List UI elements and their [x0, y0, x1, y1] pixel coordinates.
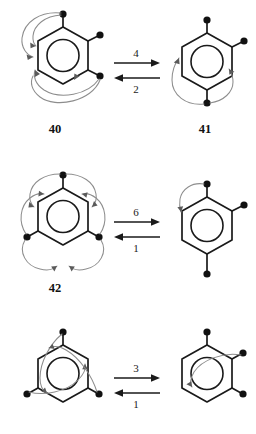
substituent-dot-c2-row-3-right — [239, 349, 246, 356]
permutation-arrow-row-2-right — [180, 184, 204, 212]
substituent-bond-c5-42 — [29, 231, 38, 236]
permutation-arrow-40-d — [31, 76, 100, 103]
substituent-bond-c2-row-2-right — [232, 206, 242, 211]
reverse-arrowhead-row-3 — [114, 389, 123, 396]
structure-label-40: 40 — [49, 122, 62, 136]
equilibrium-arrows-row-1: 4 2 — [114, 47, 160, 95]
structure-42 — [21, 171, 105, 271]
aromatic-circle-row-3-right — [191, 358, 223, 390]
permutation-arrowhead-row-3-right — [186, 381, 192, 387]
substituent-dot-c1-row-3-right — [203, 328, 210, 335]
reverse-arrowhead-row-1 — [114, 74, 123, 81]
reverse-arrow-label-row-2: 1 — [133, 242, 139, 254]
structure-row-3-right — [182, 328, 247, 402]
permutation-arrow-41-a — [172, 58, 204, 104]
substituent-dot-c5-42 — [23, 233, 30, 240]
substituent-dot-c3-row-3-right — [239, 390, 246, 397]
substituent-dot-c4-row-2-right — [203, 270, 210, 277]
structure-label-42: 42 — [49, 281, 62, 295]
permutation-arrowhead-42-e — [82, 192, 88, 198]
substituent-bond-c3-40 — [88, 70, 98, 75]
permutation-arrow-42-f — [69, 240, 104, 270]
aromatic-circle-42 — [47, 201, 79, 233]
structure-label-41: 41 — [199, 122, 212, 136]
substituent-bond-c2-41 — [232, 42, 242, 47]
substituent-bond-c3-42 — [88, 231, 97, 236]
substituent-dot-c1-40 — [59, 10, 66, 17]
substituent-bond-c2-40 — [88, 36, 98, 41]
aromatic-circle-40 — [47, 40, 79, 72]
structure-41 — [172, 16, 248, 106]
benzene-ring-40 — [38, 27, 88, 84]
benzene-ring-41 — [182, 33, 232, 90]
structure-row-3-left — [23, 328, 102, 402]
structure-40 — [22, 10, 104, 102]
forward-arrow-label-row-1: 4 — [133, 47, 139, 59]
substituent-bond-c3-row-3-right — [232, 388, 241, 393]
forward-arrowhead-row-1 — [151, 59, 160, 66]
permutation-arrow-40-a — [22, 13, 61, 57]
substituent-dot-c1-41 — [203, 16, 210, 23]
forward-arrowhead-row-2 — [151, 218, 160, 225]
equilibrium-arrows-row-2: 6 1 — [114, 206, 160, 254]
reverse-arrow-label-row-1: 2 — [133, 83, 139, 95]
benzene-ring-row-3-right — [182, 345, 232, 402]
permutation-arrowhead-41-a — [174, 58, 180, 64]
forward-arrow-label-row-2: 6 — [133, 206, 139, 218]
equilibrium-arrows-row-3: 3 1 — [114, 362, 160, 410]
substituent-dot-c5-row-3-left — [23, 390, 30, 397]
permutation-arrow-42-d — [22, 240, 57, 270]
aromatic-circle-41 — [191, 46, 223, 78]
reaction-scheme: 40 4 2 41 — [0, 0, 256, 434]
substituent-dot-c3-42 — [95, 233, 102, 240]
permutation-arrowhead-42-c — [38, 191, 44, 197]
substituent-dot-c2-41 — [240, 37, 247, 44]
benzene-ring-42 — [38, 188, 88, 245]
substituent-dot-c1-row-3-left — [59, 328, 66, 335]
forward-arrowhead-row-3 — [151, 374, 160, 381]
structure-row-2-right — [177, 180, 247, 277]
substituent-dot-c2-40 — [96, 31, 103, 38]
substituent-dot-c2-row-2-right — [240, 201, 247, 208]
benzene-ring-row-2-right — [182, 197, 232, 254]
aromatic-circle-row-2-right — [191, 210, 223, 242]
substituent-dot-c3-40 — [96, 72, 103, 79]
aromatic-circle-row-3-left — [47, 358, 79, 390]
substituent-dot-c1-42 — [59, 171, 66, 178]
permutation-arrowhead-42-b — [92, 201, 98, 207]
reverse-arrowhead-row-2 — [114, 233, 123, 240]
forward-arrow-label-row-3: 3 — [133, 362, 139, 374]
reverse-arrow-label-row-3: 1 — [133, 398, 139, 410]
